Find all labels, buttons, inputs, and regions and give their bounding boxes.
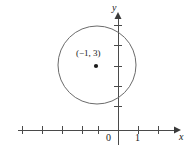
y-axis-arrow-icon (115, 12, 122, 19)
center-point-label: (−1, 3) (76, 49, 101, 58)
x-axis-label: x (179, 132, 183, 142)
center-point-marker (94, 64, 98, 68)
coordinate-plane-graphic (0, 0, 193, 157)
figure-container: y x 0 1 (−1, 3) (0, 0, 193, 157)
origin-label: 0 (106, 133, 111, 143)
x-unit-tick-label: 1 (135, 133, 140, 143)
y-axis-label: y (112, 3, 116, 13)
